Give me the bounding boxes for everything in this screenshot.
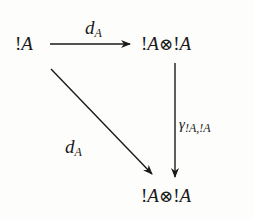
tensor-icon: ⊗ (159, 187, 173, 206)
label-top-d: dA (85, 18, 102, 39)
tensor-icon: ⊗ (159, 35, 173, 54)
object-a: A (21, 33, 33, 54)
node-source: !A (15, 34, 33, 53)
label-main: d (85, 17, 95, 38)
node-top-right: !A⊗!A (141, 34, 191, 53)
object-a: A (147, 33, 159, 54)
node-bottom-right: !A⊗!A (141, 186, 191, 205)
object-a: A (147, 185, 159, 206)
label-subscript: A (95, 26, 102, 40)
object-a: A (180, 33, 192, 54)
label-subscript: A (75, 145, 82, 159)
label-diagonal-d: dA (65, 137, 82, 158)
arrow-diagonal-d (51, 69, 152, 174)
label-vertical-gamma: γ!A,!A (179, 117, 211, 134)
object-a: A (180, 185, 192, 206)
arrows-layer (0, 0, 253, 219)
label-main: d (65, 136, 75, 157)
label-subscript: !A,!A (185, 121, 211, 135)
